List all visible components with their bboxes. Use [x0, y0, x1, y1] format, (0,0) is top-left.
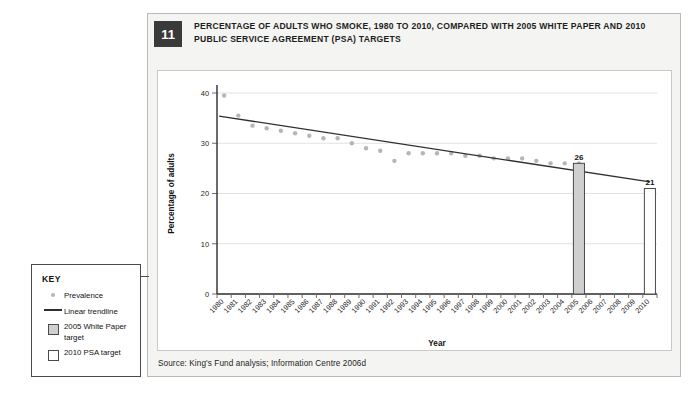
svg-text:1985: 1985 [278, 297, 296, 315]
grey-square-icon [42, 322, 64, 335]
svg-text:1981: 1981 [222, 297, 240, 315]
key-item-label: Linear trendline [64, 307, 118, 318]
svg-text:1991: 1991 [364, 297, 382, 315]
svg-text:1996: 1996 [435, 297, 453, 315]
svg-text:10: 10 [201, 240, 209, 249]
svg-text:1992: 1992 [378, 297, 396, 315]
svg-text:1990: 1990 [349, 297, 367, 315]
svg-text:26: 26 [574, 153, 583, 162]
key-item-label: Prevalence [64, 291, 103, 302]
svg-text:Percentage of adults: Percentage of adults [167, 153, 176, 234]
svg-text:1994: 1994 [406, 297, 424, 315]
svg-text:21: 21 [645, 178, 654, 187]
key-item-white-paper-target: 2005 White Paper target [42, 322, 132, 343]
dot-icon [42, 291, 64, 297]
plot-panel: 0102030401980198119821983198419851986198… [157, 70, 672, 351]
svg-text:Year: Year [428, 339, 446, 348]
svg-text:2002: 2002 [520, 297, 538, 315]
svg-text:0: 0 [205, 290, 209, 299]
svg-text:2000: 2000 [491, 297, 509, 315]
svg-text:1983: 1983 [250, 297, 268, 315]
key-item-label: 2010 PSA target [64, 348, 121, 359]
svg-text:2009: 2009 [619, 297, 637, 315]
svg-text:2004: 2004 [548, 297, 566, 315]
white-square-icon [42, 348, 64, 361]
svg-text:1993: 1993 [392, 297, 410, 315]
key-connector-line [141, 276, 149, 277]
svg-text:1998: 1998 [463, 297, 481, 315]
svg-text:2007: 2007 [591, 297, 609, 315]
figure-title: PERCENTAGE OF ADULTS WHO SMOKE, 1980 TO … [194, 20, 672, 47]
svg-text:1989: 1989 [335, 297, 353, 315]
key-item-trendline: Linear trendline [42, 307, 132, 318]
key-legend-box: KEY Prevalence Linear trendline 2005 Whi… [31, 264, 141, 377]
svg-text:20: 20 [201, 189, 209, 198]
svg-text:1984: 1984 [264, 297, 282, 315]
svg-text:2001: 2001 [506, 297, 524, 315]
svg-text:1987: 1987 [307, 297, 325, 315]
svg-text:1999: 1999 [477, 297, 495, 315]
svg-text:2003: 2003 [534, 297, 552, 315]
svg-text:2005: 2005 [562, 297, 580, 315]
key-item-prevalence: Prevalence [42, 291, 132, 302]
svg-text:1988: 1988 [321, 297, 339, 315]
svg-text:1986: 1986 [293, 297, 311, 315]
figure-header: 11 PERCENTAGE OF ADULTS WHO SMOKE, 1980 … [148, 14, 680, 53]
svg-text:40: 40 [201, 89, 209, 98]
figure-number-badge: 11 [154, 21, 182, 47]
figure-source: Source: King's Fund analysis; Informatio… [158, 359, 366, 368]
svg-text:2006: 2006 [577, 297, 595, 315]
figure-container: 11 PERCENTAGE OF ADULTS WHO SMOKE, 1980 … [147, 13, 681, 377]
line-icon [42, 307, 64, 311]
svg-text:2010: 2010 [633, 297, 651, 315]
svg-text:1995: 1995 [420, 297, 438, 315]
svg-text:2008: 2008 [605, 297, 623, 315]
svg-text:1980: 1980 [208, 297, 226, 315]
chart-svg: 0102030401980198119821983198419851986198… [158, 71, 671, 350]
svg-text:1997: 1997 [449, 297, 467, 315]
key-item-psa-target: 2010 PSA target [42, 348, 132, 361]
svg-text:1982: 1982 [236, 297, 254, 315]
svg-text:30: 30 [201, 139, 209, 148]
key-item-label: 2005 White Paper target [64, 322, 132, 343]
key-title: KEY [42, 274, 132, 284]
